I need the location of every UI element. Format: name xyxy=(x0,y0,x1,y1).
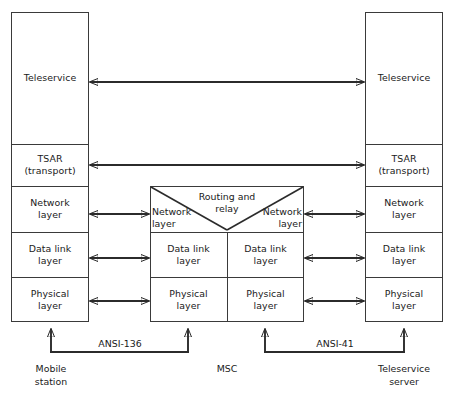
left-layer-physical-label-line1: Physical xyxy=(31,288,70,299)
left-layer-physical: Physicallayer xyxy=(11,277,89,322)
center-physical-left: Physicallayer xyxy=(150,277,227,322)
right-layer-physical-label-line2: layer xyxy=(392,300,416,311)
center-physical-right-label-line1: Physical xyxy=(246,288,285,299)
right-layer-teleservice: Teleservice xyxy=(365,12,443,144)
left-layer-network-label-line1: Network xyxy=(30,197,70,208)
interface-label-right: ANSI-41 xyxy=(285,338,385,351)
center-physical-right-label-line2: layer xyxy=(254,300,278,311)
left-layer-network: Networklayer xyxy=(11,186,89,232)
right-layer-teleservice-label: Teleservice xyxy=(378,72,430,84)
left-layer-network-label-line2: layer xyxy=(38,209,62,220)
interface-left-text: ANSI-136 xyxy=(98,338,141,349)
center-network-right-label-line1: Network xyxy=(263,206,302,217)
right-layer-datalink: Data linklayer xyxy=(365,232,443,277)
right-layer-datalink-label-line1: Data link xyxy=(383,243,425,254)
left-layer-tsar: TSAR(transport) xyxy=(11,144,89,186)
center-datalink-left: Data linklayer xyxy=(150,232,227,277)
center-routing-label-line2: relay xyxy=(215,203,238,214)
caption-teleservice-server-line2: server xyxy=(389,376,419,387)
interface-label-left: ANSI-136 xyxy=(70,338,170,351)
center-network-left-label-line1: Network xyxy=(152,206,191,217)
caption-msc: MSC xyxy=(187,363,267,376)
caption-teleservice-server-line1: Teleservice xyxy=(378,363,430,374)
caption-msc-text: MSC xyxy=(217,363,238,374)
right-layer-network: Networklayer xyxy=(365,186,443,232)
center-datalink-left-label-line2: layer xyxy=(177,255,201,266)
left-layer-physical-label-line2: layer xyxy=(38,300,62,311)
center-network-layer-left: Network layer xyxy=(152,206,204,229)
left-layer-datalink: Data linklayer xyxy=(11,232,89,277)
left-layer-tsar-label-line1: TSAR xyxy=(38,153,63,164)
right-layer-network-label-line1: Network xyxy=(384,197,424,208)
right-layer-physical: Physicallayer xyxy=(365,277,443,322)
center-routing-label-line1: Routing and xyxy=(199,191,256,202)
left-layer-teleservice: Teleservice xyxy=(11,12,89,144)
caption-mobile-station-line1: Mobile xyxy=(36,363,67,374)
protocol-stack-diagram: Teleservice TSAR(transport) Networklayer… xyxy=(0,0,454,402)
center-physical-left-label-line2: layer xyxy=(177,300,201,311)
caption-mobile-station: Mobile station xyxy=(11,363,91,388)
left-layer-tsar-label-line2: (transport) xyxy=(24,165,75,176)
center-network-left-label-line2: layer xyxy=(152,218,176,229)
right-layer-tsar: TSAR(transport) xyxy=(365,144,443,186)
right-layer-tsar-label-line1: TSAR xyxy=(392,153,417,164)
left-layer-datalink-label-line1: Data link xyxy=(29,243,71,254)
center-datalink-right-label-line1: Data link xyxy=(244,243,286,254)
center-network-layer-right: Network layer xyxy=(250,206,302,229)
caption-teleservice-server: Teleservice server xyxy=(364,363,444,388)
center-network-right-label-line2: layer xyxy=(278,218,302,229)
left-layer-datalink-label-line2: layer xyxy=(38,255,62,266)
center-datalink-left-label-line1: Data link xyxy=(167,243,209,254)
center-datalink-right-label-line2: layer xyxy=(254,255,278,266)
right-layer-tsar-label-line2: (transport) xyxy=(378,165,429,176)
right-layer-datalink-label-line2: layer xyxy=(392,255,416,266)
center-physical-left-label-line1: Physical xyxy=(169,288,208,299)
center-datalink-right: Data linklayer xyxy=(227,232,304,277)
right-layer-physical-label-line1: Physical xyxy=(385,288,424,299)
interface-right-text: ANSI-41 xyxy=(316,338,353,349)
right-layer-network-label-line2: layer xyxy=(392,209,416,220)
left-layer-teleservice-label: Teleservice xyxy=(24,72,76,84)
caption-mobile-station-line2: station xyxy=(35,376,67,387)
center-physical-right: Physicallayer xyxy=(227,277,304,322)
